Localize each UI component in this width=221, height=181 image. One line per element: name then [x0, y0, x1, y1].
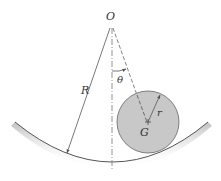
angle-theta-arc [112, 69, 126, 71]
label-angle: θ [117, 74, 123, 85]
label-track-radius: R [80, 84, 89, 97]
track-surface [11, 122, 212, 169]
label-center-of-mass: G [140, 126, 149, 139]
diagram-canvas: O R θ r G [0, 0, 221, 181]
label-origin: O [106, 10, 115, 23]
